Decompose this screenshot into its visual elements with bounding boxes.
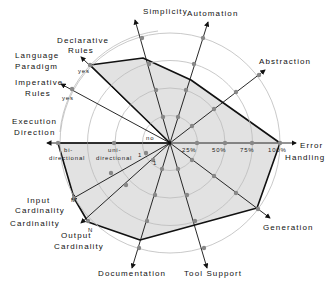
axis-label-generation: Generation [263,223,314,232]
tick-bi2: directional [49,155,85,161]
axis-label-execution: Execution [12,117,57,126]
axis-label-tool-support: Tool Support [184,269,242,278]
axis-label-direction: Direction [14,128,55,137]
axis-label-documentation: Documentation [98,269,166,278]
tick-one-b: 1 [153,160,157,166]
tick-no: no [146,135,154,141]
ring-25: 25% [182,147,196,153]
axis-label-automation: Automation [187,9,238,18]
axis-label-simplicity: Simplicity [143,7,188,16]
ring-50: 50% [212,147,226,153]
group-label-paradigm: Paradigm [15,62,58,71]
radar-chart: Simplicity Automation Abstraction Error … [0,0,334,286]
axis-label-handling: Handling [285,153,325,162]
group-label-language: Language [15,51,59,60]
axis-label-error: Error [300,141,323,150]
axis-label-rules: Rules [25,89,51,98]
group-label-cardinality: Cardinality [10,219,60,228]
tick-N: N [88,227,93,233]
tick-yes-imp: yes [62,95,74,101]
tick-M: M [71,197,77,203]
axis-label-decl-rules: Rules [68,46,94,55]
axis-label-declarative: Declarative [57,36,109,45]
axis-label-input: Input [27,196,50,205]
axis-label-input-card: Cardinality [15,206,65,215]
axis-label-imperative: Imperative [15,78,63,87]
ring-100: 100% [268,147,287,153]
axis-label-output-card: Cardinality [54,242,104,251]
tick-yes-decl: yes [78,68,90,74]
axis-label-abstraction: Abstraction [259,57,311,66]
tick-uni2: directional [96,155,132,161]
ring-75: 75% [240,147,254,153]
tick-one-a: 1 [138,152,142,158]
tick-uni: uni- [108,147,121,153]
tick-bi: bi- [64,147,73,153]
